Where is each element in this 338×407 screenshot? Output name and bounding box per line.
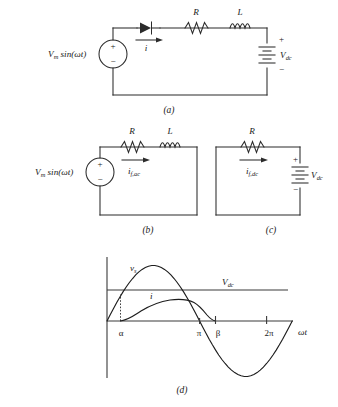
source-plus-b: + xyxy=(97,159,102,169)
caption-c: (c) xyxy=(266,225,277,236)
panel-d-chart: α π β 2π vs Vdc i ωt (d) xyxy=(107,257,307,396)
battery-label-c: Vdc xyxy=(311,170,323,181)
source-label-a: Vm sin(ωt) xyxy=(48,49,86,60)
panel-b: + − Vm sin(ωt) R L if,ac (b) xyxy=(35,126,197,236)
resistor-label-b: R xyxy=(128,126,135,136)
battery-plus-a: + xyxy=(279,34,284,44)
caption-b: (b) xyxy=(142,225,153,236)
figure-svg: + − Vm sin(ωt) i R xyxy=(0,0,338,407)
battery-symbol-a xyxy=(259,47,275,63)
current-annotation-label: i xyxy=(150,291,153,301)
inductor-label-a: L xyxy=(236,7,242,17)
beta-tick-label: β xyxy=(216,328,221,338)
dc-level-label: Vdc xyxy=(222,277,234,288)
source-voltage-label: vs xyxy=(130,263,137,274)
inductor-symbol-b xyxy=(160,143,180,147)
source-plus-a: + xyxy=(110,41,115,51)
caption-a: (a) xyxy=(163,105,174,116)
resistor-label-c: R xyxy=(248,126,255,136)
resistor-label-a: R xyxy=(192,7,199,17)
panel-c: R if,dc + − Vdc (c) xyxy=(216,126,323,236)
caption-d: (d) xyxy=(176,385,187,396)
battery-label-a: Vdc xyxy=(280,50,292,61)
inductor-symbol-a xyxy=(230,24,250,28)
figure-root: + − Vm sin(ωt) i R xyxy=(0,0,338,407)
twopi-tick-label: 2π xyxy=(264,328,274,338)
battery-minus-a: − xyxy=(279,64,284,74)
current-curve xyxy=(121,299,216,321)
current-label-b: if,ac xyxy=(128,166,140,177)
diode-icon-a xyxy=(137,22,160,34)
source-minus-a: − xyxy=(110,56,115,66)
source-minus-b: − xyxy=(97,174,102,184)
alpha-tick-label: α xyxy=(119,328,124,338)
inductor-label-b: L xyxy=(166,126,172,136)
panel-a: + − Vm sin(ωt) i R xyxy=(48,7,292,116)
battery-minus-c: − xyxy=(293,184,298,194)
current-arrow-c xyxy=(240,157,268,162)
current-arrow-a xyxy=(136,37,163,42)
pi-tick-label: π xyxy=(197,328,202,338)
current-label-a: i xyxy=(145,43,148,53)
battery-symbol-c xyxy=(292,167,308,183)
current-label-c: if,dc xyxy=(246,166,258,177)
battery-plus-c: + xyxy=(293,154,298,164)
current-arrow-b xyxy=(122,157,150,162)
x-axis-label: ωt xyxy=(298,327,307,337)
source-label-b: Vm sin(ωt) xyxy=(35,167,73,178)
